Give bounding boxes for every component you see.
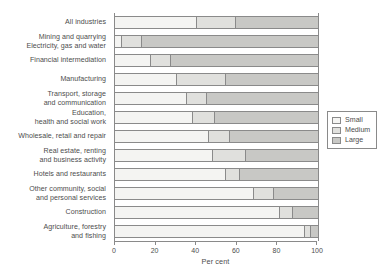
stacked-bar[interactable] [115, 168, 318, 181]
stacked-bar[interactable] [115, 92, 318, 105]
legend-label: Small [345, 116, 363, 124]
stacked-bar[interactable] [115, 16, 318, 29]
bar-segment-large[interactable] [170, 55, 318, 66]
bar-slot [115, 184, 318, 203]
bar-segment-medium[interactable] [225, 169, 239, 180]
bar-slot [115, 146, 318, 165]
x-axis-tick-label: 0 [112, 247, 116, 254]
bar-slot [115, 108, 318, 127]
bar-segment-medium[interactable] [192, 112, 214, 123]
bar-segment-small[interactable] [115, 74, 176, 85]
stacked-bar[interactable] [115, 149, 318, 162]
legend-label: Large [345, 136, 363, 144]
bar-segment-large[interactable] [292, 207, 318, 218]
bar-slot [115, 70, 318, 89]
bar-slot [115, 51, 318, 70]
bar-segment-medium[interactable] [150, 55, 170, 66]
bar-segment-small[interactable] [115, 131, 208, 142]
x-axis-tick-label: 100 [311, 247, 323, 254]
bar-segment-medium[interactable] [279, 207, 291, 218]
bar-slot [115, 165, 318, 184]
legend-swatch-icon [332, 137, 341, 144]
chart-container: All industriesMining and quarrying Elect… [0, 0, 391, 276]
bar-slot [115, 13, 318, 32]
x-axis-title: Per cent [114, 257, 317, 266]
bar-segment-small[interactable] [115, 169, 225, 180]
bar-slot [115, 32, 318, 51]
x-axis-tick [114, 241, 115, 245]
stacked-bar[interactable] [115, 206, 318, 219]
bar-segment-medium[interactable] [176, 74, 225, 85]
stacked-bar[interactable] [115, 35, 318, 48]
x-axis-tick [155, 241, 156, 245]
bar-segment-large[interactable] [235, 17, 318, 28]
x-axis: 020406080100 [114, 241, 317, 242]
bar-segment-large[interactable] [273, 188, 318, 199]
bar-segment-large[interactable] [141, 36, 318, 47]
bar-segment-medium[interactable] [196, 17, 235, 28]
category-label: Financial intermediation [0, 51, 110, 70]
category-label: Mining and quarrying Electricity, gas an… [0, 32, 110, 51]
stacked-bar[interactable] [115, 225, 318, 238]
bar-slot [115, 89, 318, 108]
legend-swatch-icon [332, 117, 341, 124]
category-axis-labels: All industriesMining and quarrying Elect… [0, 13, 110, 241]
bar-segment-large[interactable] [214, 112, 318, 123]
category-label: Construction [0, 203, 110, 222]
bar-segment-small[interactable] [115, 93, 186, 104]
x-axis-tick [276, 241, 277, 245]
legend-item[interactable]: Large [332, 136, 370, 144]
legend-item[interactable]: Medium [332, 126, 370, 134]
legend-item[interactable]: Small [332, 116, 370, 124]
x-axis-tick-label: 80 [272, 247, 280, 254]
bar-segment-small[interactable] [115, 188, 253, 199]
category-label: Transport, storage and communication [0, 89, 110, 108]
stacked-bar[interactable] [115, 130, 318, 143]
bar-segment-large[interactable] [239, 169, 318, 180]
x-axis-tick-label: 40 [191, 247, 199, 254]
bar-segment-large[interactable] [245, 150, 318, 161]
bar-segment-medium[interactable] [121, 36, 141, 47]
bar-segment-small[interactable] [115, 17, 196, 28]
category-label: All industries [0, 13, 110, 32]
plot-area [114, 13, 319, 241]
bar-segment-large[interactable] [310, 226, 318, 237]
bar-segment-small[interactable] [115, 207, 279, 218]
bar-segment-medium[interactable] [212, 150, 244, 161]
bar-segment-large[interactable] [206, 93, 318, 104]
legend-label: Medium [345, 126, 370, 134]
bar-segment-medium[interactable] [186, 93, 206, 104]
category-label: Wholesale, retail and repair [0, 127, 110, 146]
x-axis-tick [195, 241, 196, 245]
category-label: Hotels and restaurants [0, 165, 110, 184]
bar-slot [115, 222, 318, 241]
category-label: Education, health and social work [0, 108, 110, 127]
stacked-bar[interactable] [115, 73, 318, 86]
stacked-bar[interactable] [115, 187, 318, 200]
category-label: Real estate, renting and business activi… [0, 146, 110, 165]
chart-legend: SmallMediumLarge [327, 111, 377, 149]
bar-slot [115, 127, 318, 146]
bar-segment-small[interactable] [115, 150, 212, 161]
x-axis-tick [236, 241, 237, 245]
x-axis-tick-label: 60 [232, 247, 240, 254]
stacked-bar[interactable] [115, 111, 318, 124]
bar-segment-small[interactable] [115, 55, 150, 66]
category-label: Manufacturing [0, 70, 110, 89]
bar-segment-medium[interactable] [253, 188, 273, 199]
category-label: Agriculture, forestry and fishing [0, 222, 110, 241]
bar-segment-large[interactable] [229, 131, 318, 142]
bar-segment-small[interactable] [115, 112, 192, 123]
x-axis-tick-label: 20 [151, 247, 159, 254]
category-label: Other community, social and personal ser… [0, 184, 110, 203]
x-axis-tick [316, 241, 317, 245]
bar-segment-medium[interactable] [208, 131, 228, 142]
legend-swatch-icon [332, 127, 341, 134]
stacked-bar[interactable] [115, 54, 318, 67]
bar-slot [115, 203, 318, 222]
bars-stack [115, 13, 318, 241]
bar-segment-small[interactable] [115, 226, 304, 237]
bar-segment-large[interactable] [225, 74, 318, 85]
